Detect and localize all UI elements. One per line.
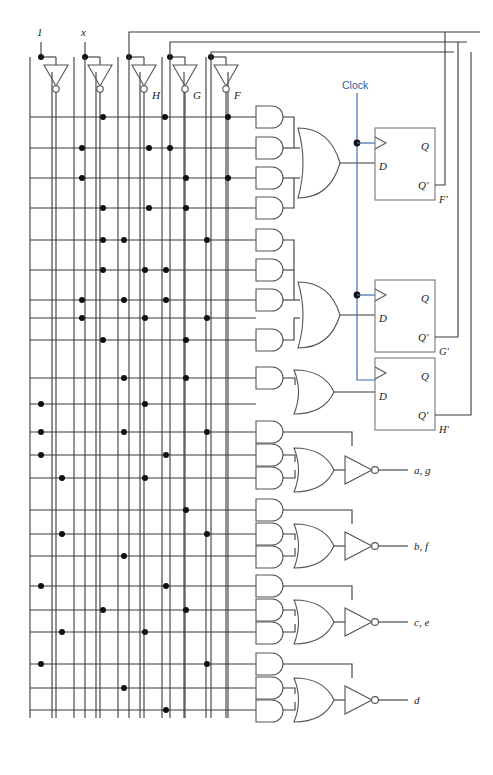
or-gate-d [294,678,345,722]
and-group-bf [256,499,352,568]
or-gate-f [298,128,375,198]
flipflop-h-q-label: Q [421,370,429,382]
inverter-bubble-icon [97,86,103,92]
output-inverter-bf: b, f [345,532,430,560]
inverter-bubble-icon [182,86,188,92]
flipflop-h: D Q Q' H' [375,52,471,435]
flipflop-g-out-label: G' [439,346,450,357]
flipflop-h-d-label: D [378,390,387,402]
junction-dot [38,54,44,60]
or-gate-bf [294,524,345,568]
and-group-ag [256,421,352,489]
inverter-bubble-icon [223,86,229,92]
clock-label: Clock [342,79,369,91]
flipflop-g-d-label: D [378,312,387,324]
inverter-bubble-icon [372,467,379,474]
output-label-c-e: c, e [414,616,429,628]
inverter-bubble-icon [372,619,379,626]
input-label-x: x [80,26,86,38]
signal-label-H: H [151,89,161,101]
flipflop-f-out-label: F' [438,194,448,205]
inverter-bubble-icon [372,697,379,704]
input-inverter-bank: 1 x H G [37,26,241,718]
or-gate-h [294,370,375,414]
and-group-f [256,106,300,219]
output-inverter-ag: a, g [345,456,431,484]
output-label-a-g: a, g [414,464,431,476]
flipflop-f-qbar-label: Q' [418,179,429,191]
flipflop-f-q-label: Q [421,140,429,152]
flipflop-h-qbar-label: Q' [418,409,429,421]
feedback-rails [129,32,480,57]
flipflop-f: D Q Q' F' [375,32,448,205]
flipflop-g-q-label: Q [421,292,429,304]
inverter-bubble-icon [372,543,379,550]
circuit-diagram-canvas: 1 x H G [0,0,493,775]
inverter-bubble-icon [53,86,59,92]
connection-dots [38,114,231,713]
or-gate-g [298,282,375,348]
and-group-ce [256,575,352,644]
input-label-1: 1 [37,26,43,38]
or-gate-ce [294,600,345,644]
flipflop-h-out-label: H' [438,424,450,435]
or-gate-ag [294,448,345,492]
and-group-d [256,653,352,722]
output-inverter-ce: c, e [345,608,429,636]
and-group-g [256,229,300,351]
flipflop-g-qbar-label: Q' [418,331,429,343]
product-term-rows [30,117,256,710]
inverter-bubble-icon [141,86,147,92]
clock-net: Clock [342,79,375,380]
circuit-svg: 1 x H G [0,0,493,775]
output-label-b-f: b, f [414,540,430,552]
output-label-d: d [414,694,420,706]
signal-label-F: F [233,89,241,101]
and-group-h [256,367,295,389]
flipflop-f-d-label: D [378,160,387,172]
signal-label-G: G [193,89,201,101]
output-inverter-d: d [345,686,420,714]
